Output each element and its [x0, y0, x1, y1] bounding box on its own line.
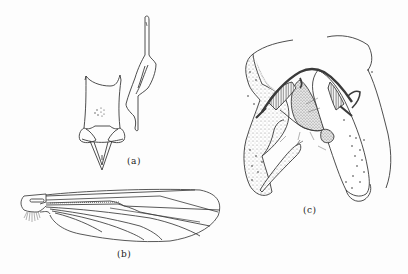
figure-artwork	[0, 0, 408, 274]
panel-label-a: (a)	[127, 156, 141, 166]
scientific-figure: (a) (b) (c)	[0, 0, 408, 274]
panel-label-b: (b)	[117, 249, 131, 259]
panel-a-side-sclerite	[126, 16, 156, 131]
panel-label-c: (c)	[303, 205, 317, 215]
panel-a-drawing	[79, 75, 125, 170]
panel-b-wing	[21, 189, 220, 241]
panel-c-hypopygium	[244, 36, 391, 196]
